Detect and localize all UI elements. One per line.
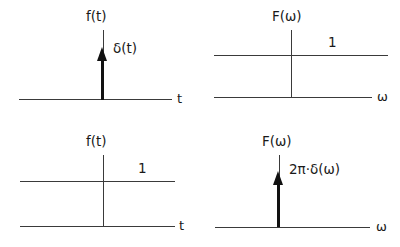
horizontal-axis-line (20, 226, 175, 227)
horizontal-axis-line (19, 99, 172, 100)
panel-time-impulse: f(t) t δ(t) (0, 0, 200, 123)
horizontal-axis-label: ω (376, 220, 387, 233)
impulse-arrow (97, 47, 109, 100)
horizontal-axis-line (215, 227, 370, 228)
figure-canvas: f(t) t δ(t) F(ω) 1 ω f(t) 1 t F(ω) ω (0, 0, 400, 247)
amplitude-label: 1 (328, 36, 337, 50)
vertical-axis-label: f(t) (86, 10, 107, 24)
panel-time-constant: f(t) 1 t (0, 124, 200, 247)
vertical-axis-label: F(ω) (262, 135, 292, 149)
horizontal-axis-label: t (177, 92, 182, 105)
impulse-label: 2π·δ(ω) (289, 163, 340, 177)
vertical-axis-line (103, 155, 104, 226)
vertical-axis-label: F(ω) (272, 10, 302, 24)
panel-freq-constant: F(ω) 1 ω (200, 0, 400, 123)
amplitude-label: 1 (138, 162, 147, 176)
horizontal-axis-label: t (179, 219, 184, 232)
vertical-axis-line (291, 30, 292, 98)
vertical-axis-label: f(t) (86, 135, 107, 149)
impulse-arrow (273, 171, 285, 227)
impulse-label: δ(t) (113, 42, 137, 56)
arrow-shaft (101, 57, 104, 100)
horizontal-axis-line (214, 97, 372, 98)
arrow-shaft (277, 181, 280, 227)
constant-level-line (20, 181, 175, 182)
horizontal-axis-label: ω (377, 90, 388, 103)
constant-level-line (214, 55, 388, 56)
panel-freq-impulse: F(ω) ω 2π·δ(ω) (200, 124, 400, 247)
